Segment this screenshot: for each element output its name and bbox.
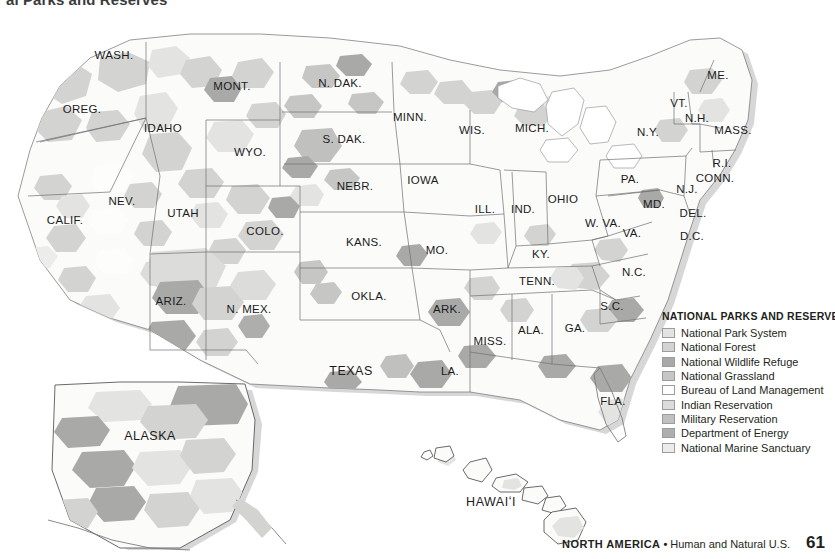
blm-swatch — [662, 385, 675, 395]
legend-item: National Marine Sanctuary — [662, 440, 834, 454]
alaska-inset[interactable] — [48, 382, 286, 550]
wildlife-swatch — [662, 357, 675, 367]
page-footer: NORTH AMERICA • Human and Natural U.S. 6… — [562, 533, 825, 553]
legend-item: Bureau of Land Management — [662, 383, 834, 397]
park-swatch — [662, 328, 675, 338]
hawaii-inset[interactable] — [421, 446, 586, 544]
marine-swatch — [662, 443, 675, 453]
legend-item: National Forest — [662, 340, 834, 354]
legend-item-label: Indian Reservation — [681, 399, 773, 411]
indian-swatch — [662, 400, 675, 410]
page-number: 61 — [806, 533, 825, 553]
legend-item-label: National Forest — [681, 341, 756, 353]
legend-item-label: Military Reservation — [681, 413, 778, 425]
footer-separator: • — [663, 538, 667, 550]
grassland-swatch — [662, 371, 675, 381]
footer-region-label: NORTH AMERICA — [562, 538, 660, 550]
legend-item-label: National Park System — [681, 327, 787, 339]
footer-subject-label: Human and Natural U.S. — [670, 538, 790, 550]
legend-item-label: National Marine Sanctuary — [681, 442, 811, 454]
legend-item: National Wildlife Refuge — [662, 355, 834, 369]
legend-item: Military Reservation — [662, 412, 834, 426]
legend-item: National Grassland — [662, 369, 834, 383]
legend-item: Indian Reservation — [662, 397, 834, 411]
military-swatch — [662, 414, 675, 424]
legend-item-label: National Wildlife Refuge — [681, 356, 798, 368]
energy-swatch — [662, 428, 675, 438]
legend-item-label: National Grassland — [681, 370, 775, 382]
us-map-svg[interactable] — [0, 0, 835, 559]
map-container[interactable]: WASH.OREG.IDAHOMONT.WYO.NEV.UTAHCALIF.CO… — [0, 0, 835, 559]
legend-item-label: Department of Energy — [681, 427, 789, 439]
map-legend: NATIONAL PARKS AND RESERVES National Par… — [662, 310, 834, 455]
legend-title: NATIONAL PARKS AND RESERVES — [662, 310, 834, 322]
legend-item: National Park System — [662, 326, 834, 340]
legend-item-label: Bureau of Land Management — [681, 384, 824, 396]
forest-swatch — [662, 342, 675, 352]
legend-item-list: National Park SystemNational ForestNatio… — [662, 326, 834, 455]
legend-item: Department of Energy — [662, 426, 834, 440]
